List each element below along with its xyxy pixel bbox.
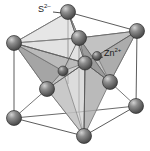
atom-s-right-mid xyxy=(103,75,118,90)
atom-s-left xyxy=(7,36,22,51)
atom-s-face-upper xyxy=(72,31,87,46)
atom-zn-interior-1 xyxy=(58,66,68,76)
sulfide-charge: 2– xyxy=(44,3,51,9)
atom-s-right xyxy=(130,24,145,39)
zinc-ion-label: Zn2+ xyxy=(104,49,121,58)
crystal-structure-diagram xyxy=(0,0,150,151)
atom-s-bottom xyxy=(77,129,92,144)
crystal-structure-figure: S2– Zn2+ xyxy=(0,0,150,151)
atom-s-left-mid xyxy=(40,82,55,97)
atom-s-top xyxy=(61,5,76,20)
zinc-element-symbol: Zn xyxy=(104,48,115,58)
atom-s-lower-right xyxy=(129,99,144,114)
sulfide-ion-label: S2– xyxy=(38,5,51,14)
zinc-charge: 2+ xyxy=(115,47,122,53)
atom-s-center xyxy=(78,56,92,70)
atom-s-lower-left xyxy=(7,111,22,126)
atom-zn-interior-2 xyxy=(93,52,102,61)
